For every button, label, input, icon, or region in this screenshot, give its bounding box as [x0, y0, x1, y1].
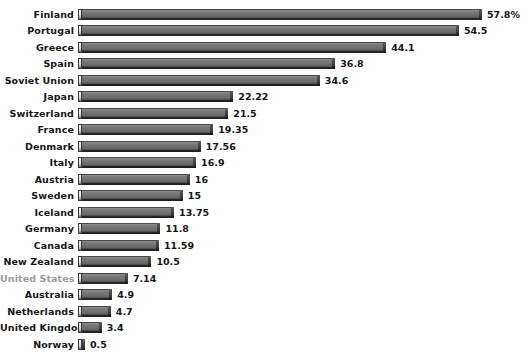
bar-row: United Kingdom3.4	[0, 320, 532, 337]
bar-row: Greece44.1	[0, 39, 532, 56]
bar-value-label: 11.8	[165, 224, 188, 234]
category-label: United States	[0, 274, 78, 284]
bar-value-label: 11.59	[164, 241, 194, 251]
bar-row: Spain36.8	[0, 56, 532, 73]
bar-value-label: 44.1	[391, 43, 414, 53]
bar-row: Norway0.5	[0, 336, 532, 353]
bar-value-label: 16	[195, 175, 208, 185]
bar-row: Germany11.8	[0, 221, 532, 238]
bar-track: 15	[78, 188, 532, 205]
bar-value-label: 4.7	[116, 307, 133, 317]
bar	[78, 91, 233, 102]
bar	[78, 75, 320, 86]
category-label: Soviet Union	[0, 76, 78, 86]
bar-track: 10.5	[78, 254, 532, 271]
bar-track: 22.22	[78, 89, 532, 106]
bar-row: Denmark17.56	[0, 138, 532, 155]
bar	[78, 25, 459, 36]
bar-value-label: 17.56	[206, 142, 236, 152]
bar-row: Canada11.59	[0, 237, 532, 254]
bar	[78, 190, 183, 201]
bar-track: 7.14	[78, 270, 532, 287]
category-label: Iceland	[0, 208, 78, 218]
bar	[78, 124, 213, 135]
bar	[78, 256, 151, 267]
category-label: Canada	[0, 241, 78, 251]
bar-value-label: 4.9	[117, 290, 134, 300]
bar	[78, 322, 102, 333]
bar	[78, 108, 228, 119]
bar	[78, 157, 196, 168]
bar-value-label: 22.22	[238, 92, 268, 102]
bar-row: Switzerland21.5	[0, 105, 532, 122]
bar-value-label: 0.5	[90, 340, 107, 350]
category-label: Portugal	[0, 26, 78, 36]
bar-track: 54.5	[78, 23, 532, 40]
bar-value-label: 57.8%	[487, 10, 520, 20]
bar-row: Netherlands4.7	[0, 303, 532, 320]
category-label: Switzerland	[0, 109, 78, 119]
bar-value-label: 19.35	[218, 125, 248, 135]
bar-track: 16.9	[78, 155, 532, 172]
category-label: Italy	[0, 158, 78, 168]
bar	[78, 240, 159, 251]
bar-row: Iceland13.75	[0, 204, 532, 221]
bar-value-label: 15	[188, 191, 201, 201]
bar	[78, 141, 201, 152]
bar-track: 3.4	[78, 320, 532, 337]
bar-value-label: 34.6	[325, 76, 348, 86]
bar-value-label: 54.5	[464, 26, 487, 36]
bar-value-label: 7.14	[133, 274, 156, 284]
category-label: Sweden	[0, 191, 78, 201]
bar-row: United States7.14	[0, 270, 532, 287]
bar-track: 19.35	[78, 122, 532, 139]
bar-row: Portugal54.5	[0, 23, 532, 40]
bar	[78, 289, 112, 300]
bar-value-label: 3.4	[107, 323, 124, 333]
bar-row: Finland57.8%	[0, 6, 532, 23]
bar-row: Italy16.9	[0, 155, 532, 172]
bar-row: Japan22.22	[0, 89, 532, 106]
bar-value-label: 10.5	[156, 257, 179, 267]
bar-track: 57.8%	[78, 6, 532, 23]
bar	[78, 207, 174, 218]
bar-row: Austria16	[0, 171, 532, 188]
category-label: Japan	[0, 92, 78, 102]
bar	[78, 273, 128, 284]
bar-track: 44.1	[78, 39, 532, 56]
bar-row: Soviet Union34.6	[0, 72, 532, 89]
bar-value-label: 21.5	[233, 109, 256, 119]
bar-track: 0.5	[78, 336, 532, 353]
category-label: Greece	[0, 43, 78, 53]
bar	[78, 9, 482, 20]
bar	[78, 174, 190, 185]
bar-track: 11.8	[78, 221, 532, 238]
bar-track: 4.7	[78, 303, 532, 320]
category-label: France	[0, 125, 78, 135]
bar-track: 4.9	[78, 287, 532, 304]
bar-track: 17.56	[78, 138, 532, 155]
bar-track: 13.75	[78, 204, 532, 221]
bar	[78, 306, 111, 317]
category-label: New Zealand	[0, 257, 78, 267]
bar	[78, 58, 335, 69]
bar-value-label: 16.9	[201, 158, 224, 168]
bar-row: France19.35	[0, 122, 532, 139]
category-label: Australia	[0, 290, 78, 300]
bar-value-label: 36.8	[340, 59, 363, 69]
category-label: Norway	[0, 340, 78, 350]
bar	[78, 339, 85, 350]
bar-value-label: 13.75	[179, 208, 209, 218]
bar	[78, 42, 386, 53]
category-label: Denmark	[0, 142, 78, 152]
bar	[78, 223, 160, 234]
bar-row: Sweden15	[0, 188, 532, 205]
bar-track: 11.59	[78, 237, 532, 254]
category-label: Austria	[0, 175, 78, 185]
bar-row: Australia4.9	[0, 287, 532, 304]
category-label: Netherlands	[0, 307, 78, 317]
bar-row: New Zealand10.5	[0, 254, 532, 271]
bar-track: 36.8	[78, 56, 532, 73]
category-label: United Kingdom	[0, 323, 78, 333]
